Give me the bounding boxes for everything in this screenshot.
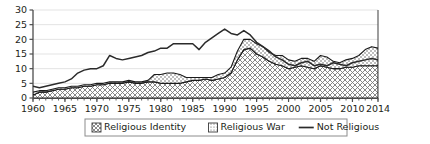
x-tick-label: 2014 [366, 103, 390, 114]
y-tick-label: 5 [21, 78, 27, 89]
legend-dotted-swatch [209, 123, 218, 132]
x-tick-label: 1970 [85, 103, 109, 114]
legend-label: Religious War [221, 121, 285, 132]
x-tick-label: 1985 [181, 103, 205, 114]
legend-item[interactable]: Religious Identity [92, 121, 187, 132]
x-tick-label: 1980 [149, 103, 173, 114]
legend-crosshatch-swatch [92, 123, 101, 132]
y-tick-label: 20 [15, 34, 27, 45]
religious-conflict-area-chart: 051015202530 196019651970197519801985199… [0, 0, 430, 144]
y-tick-label: 15 [15, 48, 27, 59]
y-tick-label: 30 [15, 4, 27, 15]
x-tick-label: 1960 [21, 103, 45, 114]
y-tick-label: 10 [15, 63, 27, 74]
x-tick-label: 1965 [53, 103, 77, 114]
x-tick-label: 2010 [340, 103, 364, 114]
x-tick-label: 1975 [117, 103, 141, 114]
legend-item[interactable]: Religious War [209, 121, 285, 132]
x-tick-label: 2005 [308, 103, 332, 114]
chart-legend: Religious IdentityReligious WarNot Relig… [85, 119, 379, 136]
x-tick-label: 1990 [213, 103, 237, 114]
legend-label: Religious Identity [104, 121, 187, 132]
chart-container: 051015202530 196019651970197519801985199… [0, 0, 430, 144]
y-tick-label: 25 [15, 19, 27, 30]
legend-label: Not Religious [317, 121, 379, 132]
x-tick-label: 1995 [245, 103, 269, 114]
x-tick-label: 2000 [276, 103, 300, 114]
